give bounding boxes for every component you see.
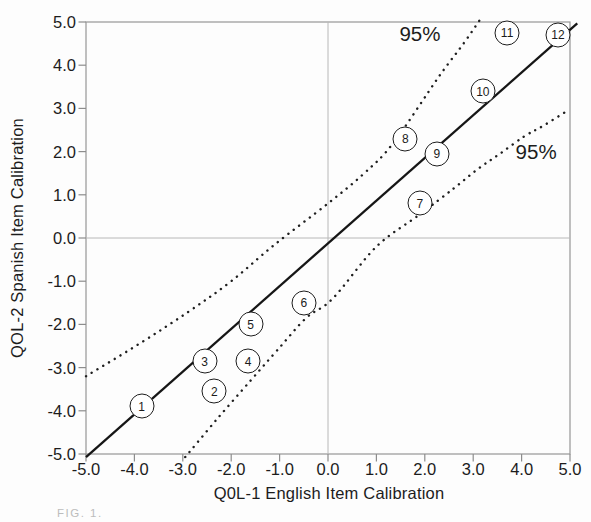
data-point-label: 6: [300, 297, 307, 309]
data-point-12: 12: [545, 22, 570, 47]
scatter-plot-figure: 5.04.03.02.01.00.0-1.0-2.0-3.0-4.0-5.0 -…: [0, 0, 591, 522]
zero-gridlines: [86, 22, 570, 454]
y-axis-title: QOL-2 Spanish Item Calibration: [8, 118, 27, 358]
data-point-11: 11: [495, 20, 520, 45]
data-point-label: 10: [476, 85, 489, 97]
data-point-label: 8: [402, 133, 409, 145]
y-tick-label: 0.0: [53, 229, 76, 248]
x-tick-label: 3.0: [462, 460, 485, 479]
x-tick-label: -5.0: [72, 460, 100, 479]
data-point-4: 4: [236, 349, 261, 374]
plot-canvas: [0, 0, 591, 522]
data-point-5: 5: [238, 312, 263, 337]
data-point-3: 3: [192, 349, 217, 374]
confidence-level-label: 95%: [516, 140, 557, 164]
y-tick-label: 1.0: [53, 185, 76, 204]
x-tick-label: 5.0: [559, 460, 582, 479]
identity-line: [86, 23, 577, 457]
x-tick-label: -2.0: [217, 460, 245, 479]
data-point-1: 1: [129, 394, 154, 419]
data-point-label: 7: [417, 197, 424, 209]
y-tick-label: 4.0: [53, 56, 76, 75]
data-point-label: 4: [245, 355, 252, 367]
x-tick-label: -3.0: [169, 460, 197, 479]
data-point-9: 9: [424, 141, 449, 166]
axis-ticks: [79, 22, 571, 462]
data-point-label: 5: [247, 318, 254, 330]
data-point-6: 6: [291, 290, 316, 315]
confidence-level-label: 95%: [399, 22, 440, 46]
x-tick-label: 1.0: [365, 460, 388, 479]
x-tick-label: 0.0: [317, 460, 340, 479]
data-point-7: 7: [407, 191, 432, 216]
y-tick-label: -2.0: [48, 315, 76, 334]
y-tick-label: 2.0: [53, 142, 76, 161]
data-point-label: 11: [501, 27, 513, 39]
data-point-label: 2: [211, 385, 218, 397]
y-tick-label: -4.0: [48, 401, 76, 420]
x-tick-label: 2.0: [413, 460, 436, 479]
x-axis-title: Q0L-1 English Item Calibration: [214, 484, 445, 503]
data-point-10: 10: [470, 79, 495, 104]
figure-caption-partial: FIG. 1.: [57, 507, 103, 521]
data-point-8: 8: [393, 126, 418, 151]
data-point-2: 2: [202, 379, 227, 404]
y-tick-label: 3.0: [53, 99, 76, 118]
y-tick-label: 5.0: [53, 13, 76, 32]
x-tick-label: -1.0: [265, 460, 293, 479]
data-point-label: 1: [138, 400, 145, 412]
x-tick-label: -4.0: [120, 460, 148, 479]
data-point-label: 3: [201, 355, 208, 367]
identity-line-group: [86, 23, 577, 457]
x-tick-label: 4.0: [510, 460, 533, 479]
data-point-label: 9: [434, 148, 441, 160]
y-tick-label: -3.0: [48, 358, 76, 377]
y-tick-label: -1.0: [48, 272, 76, 291]
data-point-label: 12: [551, 29, 564, 41]
